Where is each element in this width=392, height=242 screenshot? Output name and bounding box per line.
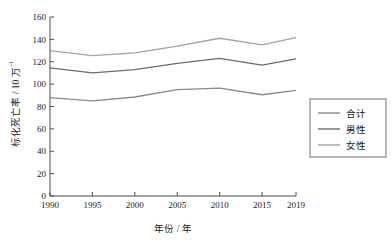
line-chart: 020406080100120140160 199019952000200520… bbox=[0, 0, 392, 242]
x-tick-label: 2010 bbox=[211, 200, 230, 210]
x-tick-label: 1990 bbox=[41, 200, 60, 210]
x-tick-label: 2019 bbox=[287, 200, 306, 210]
y-axis-title-text: 标化死亡率 / 10 万 bbox=[10, 67, 21, 146]
legend-label-合计: 合计 bbox=[346, 108, 366, 119]
y-tick-label: 80 bbox=[37, 102, 47, 112]
legend-label-男性: 男性 bbox=[346, 124, 366, 135]
chart-container: 020406080100120140160 199019952000200520… bbox=[0, 0, 392, 242]
legend: 合计男性女性 bbox=[310, 99, 386, 157]
x-tick-label: 2000 bbox=[126, 200, 145, 210]
x-tick-label: 1995 bbox=[83, 200, 102, 210]
legend-label-女性: 女性 bbox=[346, 140, 366, 151]
y-tick-label: 140 bbox=[33, 35, 47, 45]
y-tick-label: 40 bbox=[37, 146, 47, 156]
y-tick-label: 20 bbox=[37, 169, 47, 179]
y-tick-label: 100 bbox=[33, 79, 47, 89]
y-tick-label: 60 bbox=[37, 124, 47, 134]
y-axis-title-exponent: -1 bbox=[7, 61, 14, 66]
y-tick-label: 160 bbox=[33, 12, 47, 22]
x-axis-title: 年份 / 年 bbox=[154, 223, 191, 234]
y-tick-label: 120 bbox=[33, 57, 47, 67]
x-tick-label: 2005 bbox=[168, 200, 187, 210]
x-tick-label: 2015 bbox=[253, 200, 272, 210]
